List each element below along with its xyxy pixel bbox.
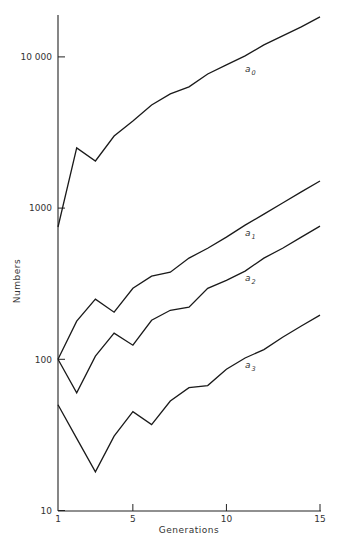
x-axis-title: Generations bbox=[159, 525, 219, 535]
y-tick-label: 100 bbox=[35, 355, 52, 365]
y-tick-label: 10 bbox=[41, 506, 53, 516]
y-axis-title: Numbers bbox=[12, 259, 22, 303]
series-line-a1 bbox=[58, 181, 320, 359]
series-lines bbox=[58, 17, 320, 472]
series-labels: a0a1a2a3 bbox=[245, 64, 256, 373]
line-chart: 10100100010 000 151015 Numbers Generatio… bbox=[0, 0, 340, 548]
series-label-a3: a3 bbox=[245, 360, 256, 373]
y-tick-label: 1000 bbox=[29, 203, 52, 213]
series-label-a2: a2 bbox=[245, 273, 256, 286]
series-line-a0 bbox=[58, 17, 320, 227]
series-label-a0: a0 bbox=[245, 64, 256, 77]
x-tick-label: 10 bbox=[221, 514, 233, 524]
x-tick-label: 5 bbox=[130, 514, 136, 524]
series-line-a2 bbox=[58, 226, 320, 393]
x-tick-label: 15 bbox=[314, 514, 325, 524]
x-tick-label: 1 bbox=[55, 514, 61, 524]
series-line-a3 bbox=[58, 315, 320, 472]
y-tick-label: 10 000 bbox=[21, 52, 53, 62]
y-axis: 10100100010 000 bbox=[21, 15, 66, 516]
x-axis: 151015 bbox=[55, 504, 326, 524]
series-label-a1: a1 bbox=[245, 228, 256, 241]
